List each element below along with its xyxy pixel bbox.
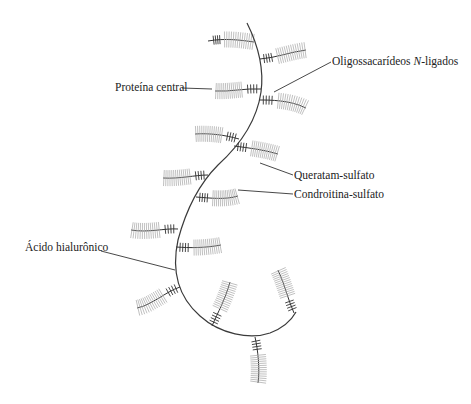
- gag-branch-9: [131, 222, 178, 239]
- gag-branch-4: [259, 93, 309, 115]
- leader-line-queratam: [260, 163, 293, 175]
- gag-branch-7: [163, 169, 208, 187]
- gag-branch-3: [215, 82, 261, 100]
- gag-branch-1: [208, 31, 254, 49]
- gag-branch-11: [136, 284, 180, 315]
- gag-branch-13: [271, 268, 296, 313]
- gag-branch-10: [176, 237, 222, 255]
- label-italic-n: N: [413, 55, 421, 67]
- label-proteina-central: Proteína central: [115, 82, 187, 94]
- gag-branch-14: [250, 337, 267, 383]
- gag-branch-8: [196, 189, 239, 207]
- label-suffix: -ligados: [421, 55, 458, 67]
- leader-line-oligo: [274, 62, 331, 92]
- gag-branch-6: [234, 140, 279, 161]
- label-oligossacarideos-n-ligados: Oligossacarídeos N-ligados: [332, 56, 458, 68]
- leader-line-hialuronico: [101, 251, 175, 270]
- label-acido-hialuronico: Ácido hialurônico: [25, 242, 108, 254]
- leader-line-condroitina: [238, 190, 293, 194]
- label-condroitina-sulfato: Condroitina-sulfato: [294, 189, 384, 201]
- gag-branch-5: [195, 126, 239, 143]
- label-text: Oligossacarídeos: [332, 55, 413, 67]
- gag-branch-2: [260, 42, 306, 64]
- label-queratam-sulfato: Queratam-sulfato: [294, 170, 374, 182]
- gag-branch-12: [210, 281, 238, 326]
